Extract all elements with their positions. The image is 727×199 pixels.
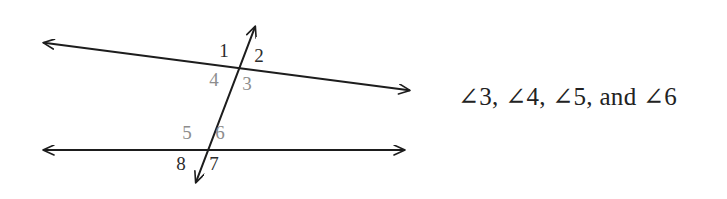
diagram-screenshot: 1 2 3 4 5 6 7 8 ∠3, ∠4, ∠5, and ∠6 — [0, 0, 727, 199]
angle-list-answer: ∠3, ∠4, ∠5, and ∠6 — [458, 82, 677, 111]
angle-label-8: 8 — [176, 153, 186, 174]
angle-label-5: 5 — [182, 122, 192, 143]
angle-label-2: 2 — [254, 45, 264, 66]
angle-label-6: 6 — [215, 122, 225, 143]
angle-label-4: 4 — [209, 69, 219, 90]
angle-label-7: 7 — [209, 153, 219, 174]
angle-label-3: 3 — [242, 73, 252, 94]
angle-label-1: 1 — [219, 40, 229, 61]
